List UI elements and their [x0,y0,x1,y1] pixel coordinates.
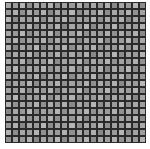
mosaic-tile [133,102,138,107]
mosaic-tile [112,17,117,22]
mosaic-tile [55,59,60,64]
mosaic-tile [27,130,32,135]
mosaic-tile [34,109,39,114]
mosaic-tile [41,123,46,128]
mosaic-tile [6,59,11,64]
mosaic-tile [69,52,74,57]
mosaic-tile [6,31,11,36]
mosaic-tile [84,3,89,8]
mosaic-tile [77,95,82,100]
mosaic-tile [133,3,138,8]
mosaic-tile [112,59,117,64]
mosaic-tile [105,130,110,135]
mosaic-tile [20,123,25,128]
mosaic-tile [6,45,11,50]
mosaic-tile [48,102,53,107]
mosaic-tile [133,66,138,71]
mosaic-tile [6,74,11,79]
mosaic-tile [41,3,46,8]
mosaic-tile [13,52,18,57]
mosaic-tile [34,74,39,79]
mosaic-tile [91,102,96,107]
mosaic-tile [55,52,60,57]
mosaic-tile [91,52,96,57]
mosaic-tile [140,52,145,57]
mosaic-tile [77,102,82,107]
mosaic-tile [140,123,145,128]
mosaic-tile [105,38,110,43]
mosaic-tile [84,81,89,86]
mosaic-tile [105,116,110,121]
mosaic-tile [62,45,67,50]
mosaic-tile [6,102,11,107]
mosaic-tile [20,24,25,29]
mosaic-tile [112,74,117,79]
mosaic-tile [62,17,67,22]
mosaic-tile [34,10,39,15]
mosaic-tile [6,123,11,128]
mosaic-tile [34,137,39,142]
mosaic-tile [34,45,39,50]
mosaic-tile [62,88,67,93]
mosaic-tile [69,24,74,29]
mosaic-tile [48,24,53,29]
mosaic-tile [112,109,117,114]
mosaic-tile [91,59,96,64]
mosaic-tile [84,102,89,107]
mosaic-tile [84,130,89,135]
mosaic-tile [13,24,18,29]
mosaic-tile [98,52,103,57]
mosaic-tile [98,31,103,36]
mosaic-tile [126,137,131,142]
mosaic-tile [48,10,53,15]
mosaic-tile [91,74,96,79]
mosaic-tile [119,123,124,128]
mosaic-tile [98,17,103,22]
mosaic-tile [133,24,138,29]
mosaic-tile [105,95,110,100]
mosaic-tile [13,95,18,100]
mosaic-tile [48,74,53,79]
mosaic-tile [62,31,67,36]
mosaic-tile [91,88,96,93]
mosaic-tile [84,45,89,50]
mosaic-tile [48,95,53,100]
mosaic-tile [77,123,82,128]
mosaic-tile [126,109,131,114]
mosaic-tile [41,137,46,142]
mosaic-tile [119,17,124,22]
mosaic-tile [48,116,53,121]
mosaic-tile [105,3,110,8]
mosaic-tile [48,130,53,135]
mosaic-tile [69,95,74,100]
mosaic-tile [55,24,60,29]
mosaic-tile [48,66,53,71]
mosaic-tile [112,95,117,100]
mosaic-tile [105,123,110,128]
mosaic-tile [84,59,89,64]
mosaic-tile [112,88,117,93]
mosaic-tile [133,10,138,15]
mosaic-tile [98,123,103,128]
mosaic-tile [13,102,18,107]
mosaic-tile [48,123,53,128]
mosaic-tile [27,45,32,50]
mosaic-tile [41,102,46,107]
mosaic-tile [105,45,110,50]
mosaic-tile [112,66,117,71]
mosaic-tile [55,66,60,71]
mosaic-tile [27,137,32,142]
mosaic-tile [20,66,25,71]
mosaic-tile [77,130,82,135]
mosaic-tile [119,137,124,142]
mosaic-tile [20,74,25,79]
mosaic-tile [98,95,103,100]
mosaic-tile [6,88,11,93]
mosaic-tile [84,137,89,142]
mosaic-tile [69,81,74,86]
mosaic-tile [48,31,53,36]
mosaic-tile [41,45,46,50]
mosaic-tile [69,109,74,114]
mosaic-tile [41,109,46,114]
mosaic-tile [105,52,110,57]
